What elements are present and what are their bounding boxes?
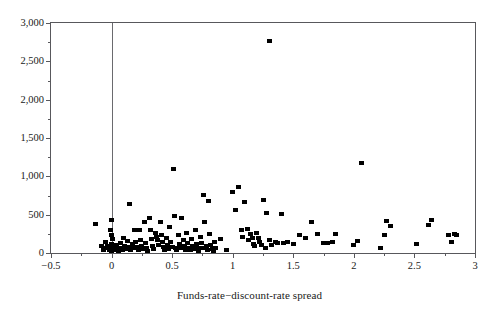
data-point	[103, 240, 108, 244]
data-point	[196, 249, 201, 253]
data-point	[159, 233, 164, 237]
data-point	[154, 235, 159, 239]
data-point	[182, 244, 187, 248]
data-point	[259, 243, 264, 247]
data-point	[325, 241, 330, 245]
data-point	[382, 233, 387, 237]
data-point	[122, 244, 127, 248]
y-tick-label: 2,500	[20, 56, 44, 67]
data-point	[240, 235, 245, 239]
data-point	[160, 240, 165, 244]
data-point	[148, 228, 153, 232]
data-point	[174, 248, 179, 252]
data-point	[261, 198, 266, 202]
x-minor-tick	[81, 253, 82, 256]
data-point	[359, 161, 364, 165]
data-point	[166, 247, 171, 251]
data-point	[177, 242, 182, 246]
data-point	[224, 248, 229, 252]
data-point	[236, 185, 241, 189]
data-point	[139, 244, 144, 248]
data-point	[119, 246, 124, 250]
data-point	[414, 242, 419, 246]
data-point	[124, 247, 129, 251]
data-point	[195, 246, 200, 250]
data-point	[104, 246, 109, 250]
data-point	[446, 233, 451, 237]
y-minor-tick	[48, 157, 51, 158]
data-point	[188, 248, 193, 252]
data-point	[161, 245, 166, 249]
y-tick	[46, 215, 51, 216]
data-point	[158, 220, 163, 224]
data-point	[127, 202, 132, 206]
scatter-plot-figure: 05001,0001,5002,0002,5003,000 −0.500.511…	[0, 0, 499, 311]
data-point	[176, 233, 181, 237]
data-point	[162, 248, 167, 252]
x-tick	[475, 253, 476, 258]
x-minor-tick	[324, 253, 325, 256]
x-tick-label: 2.5	[408, 261, 421, 272]
data-point	[99, 244, 104, 248]
data-point	[250, 236, 255, 240]
data-point	[136, 248, 141, 252]
data-point	[143, 241, 148, 245]
x-axis-title: Funds-rate−discount-rate spread	[0, 289, 499, 301]
data-point	[378, 246, 383, 250]
data-point	[168, 240, 173, 244]
data-point	[429, 218, 434, 222]
y-minor-tick	[48, 42, 51, 43]
data-point	[263, 246, 268, 250]
data-point	[165, 243, 170, 247]
y-tick	[46, 138, 51, 139]
y-tick-label: 0	[39, 248, 44, 259]
data-point	[208, 243, 213, 247]
data-point	[452, 232, 457, 236]
plot-area: 05001,0001,5002,0002,5003,000 −0.500.511…	[50, 22, 476, 254]
x-tick	[112, 253, 113, 258]
data-point	[147, 216, 152, 220]
data-point	[205, 248, 210, 252]
x-tick	[51, 253, 52, 258]
data-point	[191, 247, 196, 251]
data-point	[144, 246, 149, 250]
data-point	[113, 248, 118, 252]
data-point	[279, 212, 284, 216]
data-point	[233, 208, 238, 212]
data-point	[153, 231, 158, 235]
data-point	[207, 232, 212, 236]
data-point	[204, 244, 209, 248]
data-point	[384, 219, 389, 223]
data-point	[252, 244, 257, 248]
data-point	[171, 167, 176, 171]
data-points-layer	[51, 23, 475, 253]
y-minor-tick	[48, 234, 51, 235]
y-tick	[46, 176, 51, 177]
x-tick	[293, 253, 294, 258]
data-point	[138, 238, 143, 242]
data-point	[309, 220, 314, 224]
data-point	[193, 228, 198, 232]
y-tick-label: 1,500	[20, 133, 44, 144]
data-point	[164, 236, 169, 240]
y-tick-label: 3,000	[20, 18, 44, 29]
data-point	[242, 200, 247, 204]
y-tick-label: 500	[28, 209, 44, 220]
data-point	[355, 239, 360, 243]
data-point	[132, 228, 137, 232]
data-point	[190, 244, 195, 248]
x-minor-tick	[263, 253, 264, 256]
data-point	[273, 240, 278, 244]
data-point	[121, 236, 126, 240]
data-point	[230, 190, 235, 194]
data-point	[173, 246, 178, 250]
y-minor-tick	[48, 81, 51, 82]
data-point	[120, 248, 125, 252]
data-point	[181, 238, 186, 242]
data-point	[128, 248, 133, 252]
y-tick-label: 2,000	[20, 94, 44, 105]
y-minor-tick	[48, 196, 51, 197]
data-point	[115, 246, 120, 250]
data-point	[198, 235, 203, 239]
data-point	[291, 242, 296, 246]
